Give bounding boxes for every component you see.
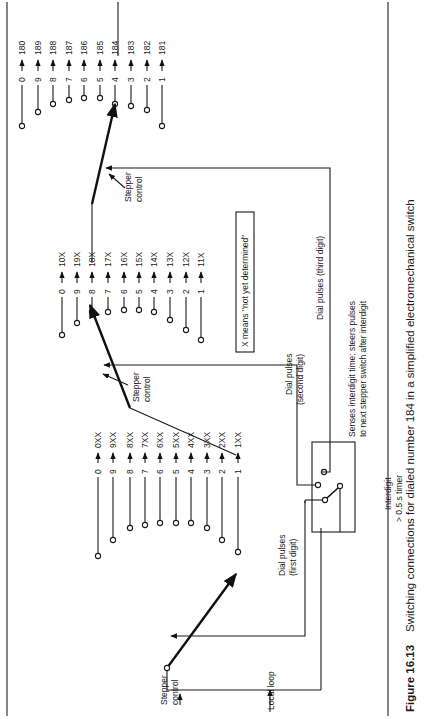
dial-pulses-second-label-b: (second digit) <box>295 354 305 405</box>
contact-digit: 2 <box>181 289 191 294</box>
contact-terminal <box>97 95 102 100</box>
contact-terminal <box>173 520 178 525</box>
contact-output: 17X <box>103 252 113 267</box>
dial-pulses-first-label-b: (first digit) <box>288 539 298 576</box>
stepper-base-wire <box>167 670 321 690</box>
contact-digit: 0 <box>57 289 67 294</box>
contact-output: 19X <box>72 252 82 267</box>
contact-row: 99XX <box>108 432 118 543</box>
timer-pivot <box>337 483 342 488</box>
contact-terminal <box>183 327 188 332</box>
stepper-control-label-1b: control <box>170 679 180 705</box>
contact-output: 8XX <box>125 432 135 448</box>
contact-output: 189 <box>33 41 43 55</box>
contact-terminal <box>204 525 209 530</box>
contact-row: 00XX <box>93 432 103 559</box>
contact-terminal <box>136 307 141 312</box>
contact-row: 414X <box>149 252 159 315</box>
contact-row: 33XX <box>202 432 212 531</box>
contact-row: 717X <box>103 252 113 315</box>
contact-digit: 4 <box>110 77 120 82</box>
second-digit-stepper: 010X919X818X717X616X515X414X313X212X111X <box>57 252 206 343</box>
contact-output: 5XX <box>171 432 181 448</box>
contact-row: 55XX <box>171 432 181 526</box>
contact-row: 8188 <box>48 41 58 107</box>
contact-digit: 9 <box>72 289 82 294</box>
stepper-control-label-2a: Stepper <box>131 372 141 402</box>
legend-text: X means "not yet determined" <box>240 235 250 347</box>
contact-output: 1XX <box>233 432 243 448</box>
switching-diagram: Figure 16.13 Switching connections for d… <box>0 0 433 719</box>
contact-row: 010X <box>57 252 67 338</box>
contact-digit: 0 <box>17 77 27 82</box>
contact-row: 9189 <box>33 41 43 115</box>
contact-terminal <box>235 549 240 554</box>
wiper-arm-third <box>92 104 115 204</box>
contact-digit: 1 <box>196 289 206 294</box>
stepper-control-pointer-2 <box>103 374 128 385</box>
contact-digit: 8 <box>87 289 97 294</box>
contact-row: 212X <box>181 252 191 333</box>
contact-digit: 8 <box>48 77 58 82</box>
contact-terminal <box>188 520 193 525</box>
contact-row: 44XX <box>186 432 196 526</box>
contact-output: 16X <box>119 252 129 267</box>
wiper-pivot-first <box>164 665 169 670</box>
contact-digit: 7 <box>103 289 113 294</box>
timer-contact-first <box>322 497 327 502</box>
contact-output: 6XX <box>155 432 165 448</box>
contact-digit: 3 <box>202 469 212 474</box>
contact-row: 5185 <box>95 41 105 101</box>
dial-pulses-third-wire <box>106 168 330 472</box>
stepper-control-label-3b: control <box>134 176 144 202</box>
contact-digit: 9 <box>33 77 43 82</box>
contact-digit: 5 <box>134 289 144 294</box>
contact-row: 616X <box>119 252 129 313</box>
contact-digit: 8 <box>125 469 135 474</box>
timer-note-line-2: to next stepper switch after interdigit <box>358 300 368 437</box>
contact-row: 66XX <box>155 432 165 526</box>
dial-pulses-first-label-a: Dial pulses <box>277 534 287 576</box>
contact-terminal <box>121 307 126 312</box>
contact-row: 1181 <box>157 41 167 129</box>
dial-pulses-third-label: Dial pulses (third digit) <box>315 236 325 320</box>
contact-terminal <box>19 123 24 128</box>
contact-output: 187 <box>64 41 74 55</box>
contact-digit: 2 <box>217 469 227 474</box>
contact-output: 188 <box>48 41 58 55</box>
timer-label-a: Interdigit <box>383 477 393 510</box>
first-digit-stepper: 00XX99XX88XX77XX66XX55XX44XX33XX22XX11XX <box>93 432 243 559</box>
contact-terminal <box>66 97 71 102</box>
contact-row: 0180 <box>17 41 27 129</box>
figure-caption: Figure 16.13 Switching connections for d… <box>404 199 416 712</box>
contact-digit: 5 <box>95 77 105 82</box>
contact-digit: 3 <box>165 289 175 294</box>
contact-terminal <box>151 309 156 314</box>
figure-caption-text: Switching connections for dialed number … <box>404 199 416 632</box>
contact-output: 7XX <box>140 432 150 448</box>
contact-terminal <box>144 107 149 112</box>
contact-row: 77XX <box>140 432 150 528</box>
contact-row: 919X <box>72 252 82 326</box>
contact-digit: 9 <box>108 469 118 474</box>
third-digit-stepper: 0180918981887187618651854184318321821181 <box>17 2 167 129</box>
contact-output: 0XX <box>93 432 103 448</box>
contact-row: 11XX <box>233 432 243 555</box>
contact-terminal <box>159 123 164 128</box>
figure-number: Figure 16.13 <box>404 645 416 712</box>
contact-digit: 6 <box>155 469 165 474</box>
contact-terminal <box>35 109 40 114</box>
contact-terminal <box>198 337 203 342</box>
contact-digit: 0 <box>93 469 103 474</box>
contact-terminal <box>110 537 115 542</box>
dial-pulses-second-label-a: Dial pulses <box>284 353 294 395</box>
contact-output: 2XX <box>217 432 227 448</box>
wiper-arm-second <box>90 305 130 408</box>
local-loop-label: Local loop <box>266 671 276 710</box>
contact-output: 181 <box>157 41 167 55</box>
timer-label-b: > 0.5 s timer <box>394 475 404 522</box>
contact-terminal <box>105 309 110 314</box>
contact-output: 180 <box>17 41 27 55</box>
timer-note-line-1: Senses interdigit time; steers pulses <box>347 301 357 437</box>
timer-contact-second <box>315 482 320 487</box>
